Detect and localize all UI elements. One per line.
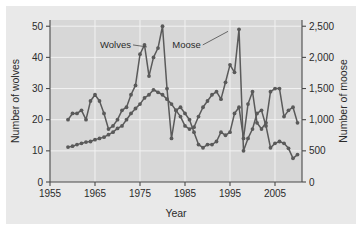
y-tick-label: 50 (32, 21, 44, 32)
x-axis-title: Year (165, 207, 187, 219)
y2-tick-label: 1,500 (309, 83, 334, 94)
y2-tick-label: 0 (309, 177, 315, 188)
wolves-moose-line-chart: 1955196519751985199520050102030405005001… (6, 6, 356, 224)
series-annotation-moose: Moose (172, 39, 201, 50)
x-tick-label: 1955 (39, 188, 62, 199)
y2-tick-label: 2,500 (309, 21, 334, 32)
x-tick-label: 2005 (264, 188, 287, 199)
y2-tick-label: 500 (309, 145, 326, 156)
y-tick-label: 0 (37, 177, 43, 188)
series-annotation-wolves: Wolves (100, 39, 131, 50)
y-tick-label: 20 (32, 114, 44, 125)
figure-panel: 1955196519751985199520050102030405005001… (6, 6, 356, 224)
y-tick-label: 30 (32, 83, 44, 94)
y-tick-label: 40 (32, 52, 44, 63)
x-tick-label: 1975 (129, 188, 152, 199)
y-tick-label: 10 (32, 145, 44, 156)
y-axis-title: Number of wolves (9, 59, 21, 143)
x-tick-label: 1995 (219, 188, 242, 199)
y2-tick-label: 2,000 (309, 52, 334, 63)
figure-container: 1955196519751985199520050102030405005001… (0, 0, 362, 234)
x-tick-label: 1985 (174, 188, 197, 199)
y2-axis-title: Number of moose (337, 59, 349, 143)
x-tick-label: 1965 (84, 188, 107, 199)
y2-tick-label: 1,000 (309, 114, 334, 125)
